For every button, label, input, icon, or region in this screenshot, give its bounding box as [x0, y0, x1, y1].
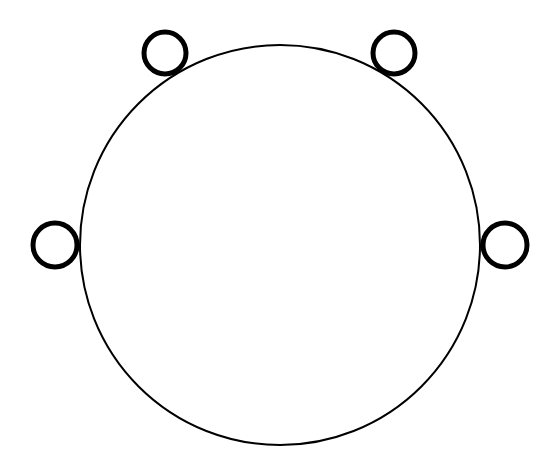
small-circle-left	[33, 223, 77, 267]
small-circle-top-left	[144, 32, 186, 74]
small-circles-group	[33, 32, 527, 267]
small-circle-right	[483, 223, 527, 267]
diagram-canvas	[0, 0, 557, 467]
small-circle-top-right	[373, 32, 415, 74]
main-circle	[80, 45, 480, 445]
